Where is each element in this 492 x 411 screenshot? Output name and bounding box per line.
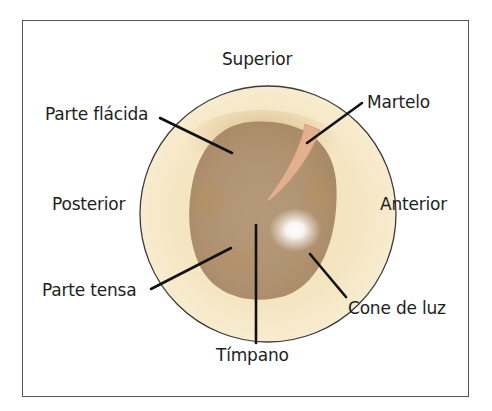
label-superior: Superior [222, 51, 292, 68]
label-posterior: Posterior [52, 196, 125, 213]
label-cone-de-luz: Cone de luz [348, 300, 446, 317]
label-timpano: Tímpano [216, 347, 289, 364]
label-parte-flacida: Parte flácida [45, 106, 148, 123]
label-martelo: Martelo [367, 94, 430, 111]
cone-of-light [269, 208, 321, 252]
label-parte-tensa: Parte tensa [42, 282, 136, 299]
label-anterior: Anterior [380, 196, 447, 213]
